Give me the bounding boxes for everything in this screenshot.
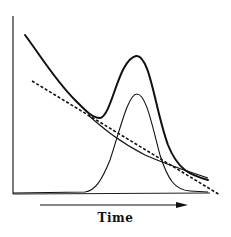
- linear-baseline: [32, 81, 220, 195]
- total-signal-curve: [25, 35, 208, 180]
- diagram-canvas: [0, 0, 231, 237]
- x-axis: [13, 193, 210, 194]
- time-arrow-head-icon: [176, 202, 188, 208]
- peak-curve: [13, 94, 208, 193]
- x-axis-label: Time: [0, 211, 231, 225]
